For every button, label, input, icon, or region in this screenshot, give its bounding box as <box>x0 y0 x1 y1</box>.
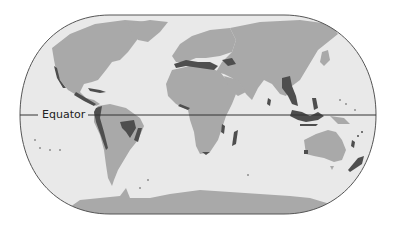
highlight-sw-australia <box>304 150 308 154</box>
highlight-java <box>300 124 318 126</box>
equator-label: Equator <box>40 109 87 121</box>
